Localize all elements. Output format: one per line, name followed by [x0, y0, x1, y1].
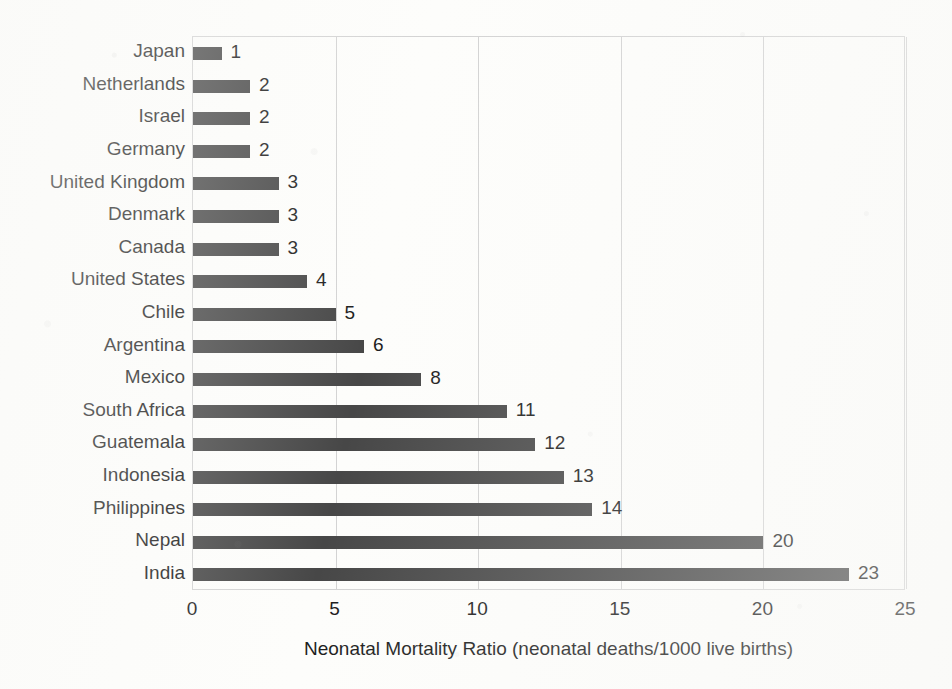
bar-value-label: 3 — [288, 204, 299, 226]
bar-value-label: 20 — [772, 530, 793, 552]
bar-row: 2 — [193, 102, 904, 135]
y-axis-label-chile: Chile — [6, 301, 192, 323]
y-axis-label-japan: Japan — [6, 40, 192, 62]
x-tick-label-25: 25 — [894, 598, 915, 620]
y-axis-label-netherlands: Netherlands — [6, 73, 192, 95]
bar-value-label: 13 — [573, 465, 594, 487]
bar — [193, 503, 592, 516]
bar-row: 3 — [193, 233, 904, 266]
bar-value-label: 3 — [288, 237, 299, 259]
y-axis-label-united-states: United States — [6, 268, 192, 290]
bar-value-label: 3 — [288, 171, 299, 193]
bar-row: 23 — [193, 558, 904, 591]
bar-row: 11 — [193, 395, 904, 428]
bar — [193, 243, 279, 256]
bar — [193, 177, 279, 190]
bar-value-label: 8 — [430, 367, 441, 389]
x-tick-label-0: 0 — [187, 598, 198, 620]
y-axis-label-germany: Germany — [6, 138, 192, 160]
bar-value-label: 12 — [544, 432, 565, 454]
bar — [193, 373, 421, 386]
bar — [193, 308, 336, 321]
bar-row: 12 — [193, 428, 904, 461]
bar — [193, 145, 250, 158]
bar — [193, 438, 535, 451]
bar-value-label: 6 — [373, 334, 384, 356]
bar-row: 3 — [193, 200, 904, 233]
plot-area: 12223334568111213142023 — [192, 36, 905, 590]
y-axis-label-philippines: Philippines — [6, 497, 192, 519]
bar-row: 6 — [193, 330, 904, 363]
x-axis-tick-labels: 0510152025 — [0, 598, 952, 628]
y-axis-label-denmark: Denmark — [6, 203, 192, 225]
bar-row: 1 — [193, 37, 904, 70]
bar — [193, 471, 564, 484]
y-axis-label-united-kingdom: United Kingdom — [6, 171, 192, 193]
gridline-25 — [906, 37, 907, 589]
bar-row: 5 — [193, 298, 904, 331]
y-axis-label-south-africa: South Africa — [6, 399, 192, 421]
x-tick-label-5: 5 — [329, 598, 340, 620]
x-tick-label-15: 15 — [609, 598, 630, 620]
bar-value-label: 2 — [259, 74, 270, 96]
bar — [193, 80, 250, 93]
x-tick-label-20: 20 — [752, 598, 773, 620]
bar — [193, 340, 364, 353]
y-axis-label-israel: Israel — [6, 105, 192, 127]
bar — [193, 47, 222, 60]
y-axis-label-nepal: Nepal — [6, 529, 192, 551]
x-tick-label-10: 10 — [467, 598, 488, 620]
bar-value-label: 1 — [231, 41, 242, 63]
bar-value-label: 2 — [259, 139, 270, 161]
bar-value-label: 14 — [601, 497, 622, 519]
bar-value-label: 4 — [316, 269, 327, 291]
bar-row: 14 — [193, 493, 904, 526]
bar-row: 2 — [193, 135, 904, 168]
y-axis-category-labels: JapanNetherlandsIsraelGermanyUnited King… — [0, 36, 192, 590]
bar-row: 3 — [193, 167, 904, 200]
bar — [193, 275, 307, 288]
y-axis-label-mexico: Mexico — [6, 366, 192, 388]
neonatal-mortality-bar-chart: JapanNetherlandsIsraelGermanyUnited King… — [0, 0, 952, 689]
y-axis-label-argentina: Argentina — [6, 334, 192, 356]
bar-row: 13 — [193, 461, 904, 494]
bar — [193, 405, 507, 418]
bar-value-label: 11 — [516, 399, 536, 421]
bar — [193, 210, 279, 223]
bar-row: 2 — [193, 70, 904, 103]
bar-row: 4 — [193, 265, 904, 298]
y-axis-label-indonesia: Indonesia — [6, 464, 192, 486]
bar-value-label: 23 — [858, 562, 879, 584]
x-axis-title: Neonatal Mortality Ratio (neonatal death… — [192, 638, 905, 660]
y-axis-label-guatemala: Guatemala — [6, 431, 192, 453]
bar-value-label: 2 — [259, 106, 270, 128]
bar-row: 8 — [193, 363, 904, 396]
y-axis-label-canada: Canada — [6, 236, 192, 258]
bar — [193, 568, 849, 581]
bar-row: 20 — [193, 526, 904, 559]
bar-value-label: 5 — [345, 302, 356, 324]
bar — [193, 112, 250, 125]
y-axis-label-india: India — [6, 562, 192, 584]
bar — [193, 536, 763, 549]
